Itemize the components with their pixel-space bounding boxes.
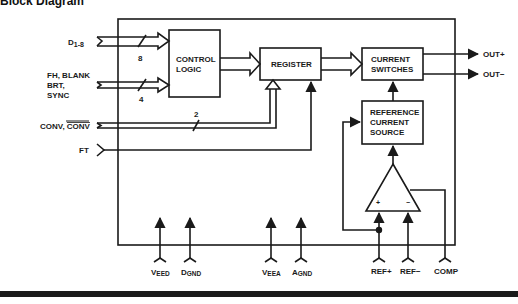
reference-label-3: SOURCE (370, 128, 405, 137)
data-bus-width: 8 (138, 54, 143, 63)
pin-veea (265, 218, 277, 262)
pin-agnd (295, 218, 307, 262)
current-switches-block (362, 48, 423, 80)
out-minus-label: OUT− (483, 70, 505, 79)
pin-label-ref-minus: REF− (400, 267, 421, 276)
pin-label-ref-plus: REF+ (371, 267, 392, 276)
pin-label-agnd: AGND (292, 268, 313, 277)
control-to-register-bus (220, 53, 260, 75)
pin-label-dgnd: DGND (181, 268, 202, 277)
reference-label-2: CURRENT (370, 118, 409, 127)
block-diagram: CONTROL LOGIC REGISTER CURRENT SWITCHES … (0, 0, 518, 304)
control-input-label-1: FH, BLANK (47, 71, 90, 80)
conv-input-label: CONV, CONV (40, 122, 91, 131)
amplifier-triangle (366, 164, 420, 211)
register-label: REGISTER (271, 60, 312, 69)
conv-bus-width: 2 (194, 110, 199, 119)
pin-dgnd (184, 218, 196, 262)
pin-label-comp: COMP (434, 267, 459, 276)
control-input-label-3: SYNC (47, 91, 69, 100)
switches-label-2: SWITCHES (371, 65, 414, 74)
pin-veed (154, 218, 166, 262)
register-to-switches-bus (321, 53, 362, 75)
pin-label-veea: VEEA (262, 268, 281, 277)
control-logic-label-1: CONTROL (176, 55, 216, 64)
ft-input-label: FT (79, 146, 89, 155)
ft-line (97, 82, 311, 156)
control-bus (97, 78, 169, 92)
amp-plus-label: + (376, 199, 380, 206)
data-input-label: D1-8 (68, 38, 84, 48)
pin-ref-plus (373, 213, 385, 262)
switches-label-1: CURRENT (371, 55, 410, 64)
pin-label-veed: VEED (151, 268, 170, 277)
control-logic-label-2: LOGIC (176, 65, 202, 74)
data-bus (97, 33, 169, 49)
reference-label-1: REFERENCE (370, 108, 420, 117)
amp-minus-label: − (406, 199, 410, 206)
pin-ref-minus (402, 213, 414, 262)
out-plus-label: OUT+ (483, 50, 505, 59)
pin-comp (439, 258, 451, 262)
bottom-rule (0, 291, 518, 297)
control-input-label-2: BRT, (47, 81, 65, 90)
control-bus-width: 4 (139, 95, 144, 104)
